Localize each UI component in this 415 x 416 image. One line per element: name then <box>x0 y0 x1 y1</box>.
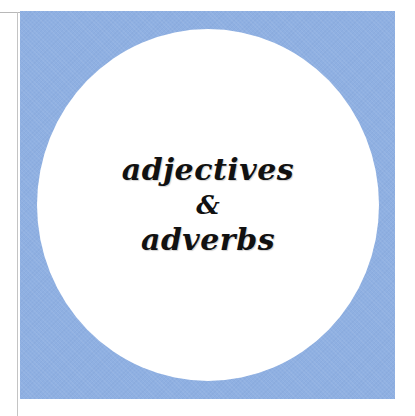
title-adjectives: adjectives <box>122 153 294 187</box>
cover-title: adjectives & adverbs <box>37 29 379 381</box>
title-ampersand: & <box>196 189 219 221</box>
page-edge-rule-left <box>17 12 18 416</box>
title-adverbs: adverbs <box>141 223 275 257</box>
